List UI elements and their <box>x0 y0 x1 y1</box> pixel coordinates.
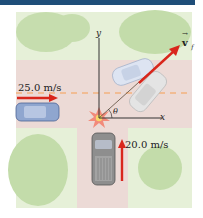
collision-diagram <box>0 0 203 218</box>
final-velocity-symbol: v <box>182 37 188 48</box>
tree-top-right <box>119 10 191 54</box>
final-velocity-subscript: f <box>191 43 193 50</box>
y-axis-label: y <box>96 29 101 38</box>
final-velocity-label: → v f <box>182 38 194 50</box>
car2-speed-label: 20.0 m/s <box>125 140 168 150</box>
angle-theta-label: θ <box>113 108 118 116</box>
tree-bottom-left <box>8 134 68 206</box>
pickup-truck <box>92 133 115 185</box>
blue-car <box>16 103 59 121</box>
car1-speed-label: 25.0 m/s <box>18 83 61 93</box>
x-axis-label: x <box>160 113 165 122</box>
tree-bottom-right <box>138 146 182 190</box>
